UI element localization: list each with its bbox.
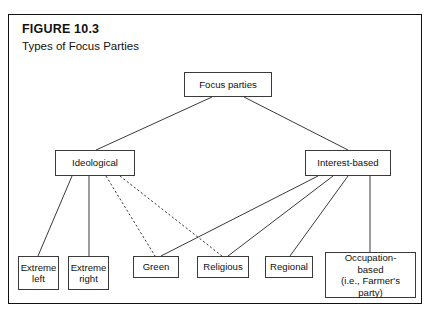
- node-label: Ideological: [72, 157, 118, 169]
- node-green: Green: [133, 256, 179, 278]
- node-regional: Regional: [265, 256, 313, 278]
- edge-interest-to-religious: [228, 176, 333, 256]
- node-interest-based: Interest-based: [305, 150, 391, 176]
- edge-focus-to-ideological: [96, 97, 212, 150]
- node-label: Extreme left: [21, 262, 57, 285]
- node-label: Extreme right: [71, 262, 107, 285]
- node-focus-parties: Focus parties: [184, 72, 272, 97]
- node-label: Interest-based: [317, 157, 378, 169]
- node-extreme-right: Extreme right: [68, 256, 109, 290]
- node-label: Religious: [203, 261, 242, 273]
- figure-container: FIGURE 10.3 Types of Focus Parties Focus…: [0, 0, 432, 319]
- edge-ideological-to-religious: [120, 176, 222, 256]
- node-label: Regional: [270, 261, 308, 273]
- node-religious: Religious: [197, 256, 249, 278]
- node-ideological: Ideological: [55, 150, 135, 176]
- edge-focus-to-interest: [244, 97, 348, 150]
- edge-interest-to-green: [161, 176, 318, 256]
- node-label: Occupation- based (i.e., Farmer's party): [328, 252, 413, 298]
- node-occupation-based: Occupation- based (i.e., Farmer's party): [325, 252, 416, 298]
- edge-ideological-to-extreme-left: [38, 176, 72, 256]
- node-extreme-left: Extreme left: [18, 256, 59, 290]
- node-label: Green: [143, 261, 170, 273]
- edge-ideological-to-green: [106, 176, 155, 256]
- edge-interest-to-regional: [290, 176, 348, 256]
- node-label: Focus parties: [199, 79, 257, 91]
